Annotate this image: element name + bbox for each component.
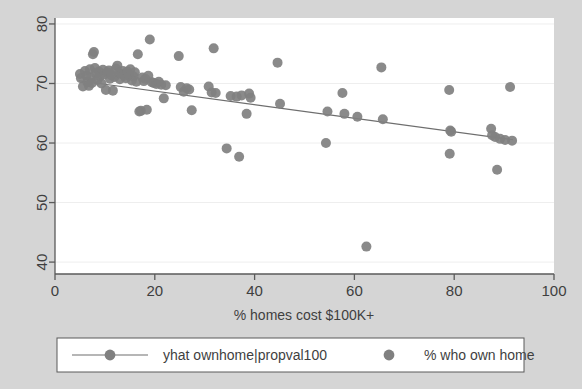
y-tick-label-70: 70 bbox=[34, 75, 51, 92]
legend: yhat ownhome|propval100 % who own home bbox=[57, 338, 535, 372]
scatter-point bbox=[174, 51, 184, 61]
scatter-point bbox=[376, 62, 386, 72]
scatter-point bbox=[505, 82, 515, 92]
x-tick-label-20: 20 bbox=[146, 282, 163, 299]
scatter-point bbox=[322, 106, 332, 116]
scatter-point bbox=[444, 85, 454, 95]
x-axis-title: % homes cost $100K+ bbox=[234, 307, 374, 323]
scatter-point bbox=[89, 47, 99, 57]
legend-label-scatter: % who own home bbox=[424, 347, 535, 363]
scatter-point bbox=[161, 80, 171, 90]
scatter-point bbox=[209, 43, 219, 53]
scatter-point bbox=[275, 99, 285, 109]
x-tick-label-40: 40 bbox=[246, 282, 263, 299]
scatter-point bbox=[184, 84, 194, 94]
scatter-point bbox=[222, 143, 232, 153]
scatter-point bbox=[378, 114, 388, 124]
scatter-point bbox=[337, 88, 347, 98]
scatter-point bbox=[352, 112, 362, 122]
scatter-point bbox=[142, 105, 152, 115]
scatter-plot-figure: 020406080100 4050607080 % homes cost $10… bbox=[0, 0, 582, 389]
scatter-point bbox=[507, 136, 517, 146]
y-tick-label-60: 60 bbox=[34, 135, 51, 152]
scatter-point bbox=[339, 109, 349, 119]
legend-label-fit: yhat ownhome|propval100 bbox=[163, 347, 327, 363]
legend-circle-icon-scatter bbox=[384, 350, 395, 361]
scatter-point bbox=[361, 242, 371, 252]
x-tick-label-0: 0 bbox=[51, 282, 59, 299]
scatter-point bbox=[446, 127, 456, 137]
scatter-point bbox=[211, 88, 221, 98]
scatter-point bbox=[234, 152, 244, 162]
scatter-point bbox=[492, 165, 502, 175]
scatter-point bbox=[273, 58, 283, 68]
scatter-point bbox=[187, 105, 197, 115]
y-tick-label-50: 50 bbox=[34, 194, 51, 211]
x-tick-label-80: 80 bbox=[446, 282, 463, 299]
scatter-point bbox=[145, 34, 155, 44]
legend-circle-icon-fit bbox=[105, 350, 116, 361]
scatter-point bbox=[133, 49, 143, 59]
y-tick-label-40: 40 bbox=[34, 254, 51, 271]
x-tick-label-60: 60 bbox=[346, 282, 363, 299]
scatter-point bbox=[246, 93, 256, 103]
scatter-point bbox=[321, 138, 331, 148]
x-tick-label-100: 100 bbox=[541, 282, 566, 299]
scatter-point bbox=[159, 93, 169, 103]
scatter-point bbox=[108, 86, 118, 96]
scatter-point bbox=[445, 149, 455, 159]
y-tick-label-80: 80 bbox=[34, 16, 51, 33]
plot-area-background bbox=[55, 18, 554, 274]
scatter-point bbox=[242, 109, 252, 119]
